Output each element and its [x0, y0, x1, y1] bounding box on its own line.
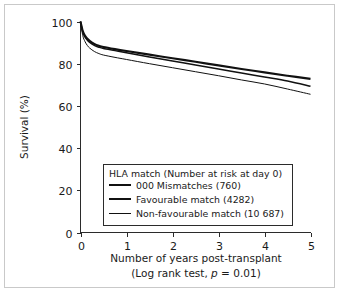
legend-header: HLA match (Number at risk at day 0)	[109, 168, 282, 179]
x-tick-group: 012345	[78, 233, 315, 253]
x-axis-subtitle-prefix: (Log rank test,	[131, 267, 211, 279]
legend-entry-label: Non-favourable match (10 687)	[136, 208, 284, 219]
x-axis-subtitle: (Log rank test, p = 0.01)	[131, 267, 260, 279]
x-axis-title: Number of years post-transplant	[110, 252, 281, 264]
y-tick-label: 40	[59, 143, 73, 156]
y-axis: 020406080100	[52, 17, 81, 241]
legend: HLA match (Number at risk at day 0) 000 …	[104, 165, 293, 226]
survival-chart-figure: 020406080100 012345 Survival (%) Number …	[0, 0, 339, 292]
x-tick-label: 4	[262, 240, 269, 253]
x-tick-label: 5	[308, 240, 315, 253]
y-tick-label: 0	[66, 228, 73, 241]
x-tick-label: 0	[78, 240, 85, 253]
x-tick-label: 1	[124, 240, 131, 253]
y-tick-label: 80	[59, 59, 73, 72]
x-tick-label: 2	[170, 240, 177, 253]
legend-entry-label: Favourable match (4282)	[136, 194, 254, 205]
y-tick-group: 020406080100	[52, 17, 81, 241]
y-tick-label: 100	[52, 17, 73, 30]
survival-chart-svg: 020406080100 012345 Survival (%) Number …	[0, 0, 339, 292]
y-axis-title: Survival (%)	[18, 95, 30, 159]
survival-curve	[81, 22, 311, 87]
x-axis: 012345	[78, 233, 315, 253]
x-tick-label: 3	[216, 240, 223, 253]
survival-curve	[81, 22, 311, 95]
legend-entry-label: 000 Mismatches (760)	[136, 180, 241, 191]
y-tick-label: 60	[59, 101, 73, 114]
x-axis-subtitle-suffix: = 0.01)	[218, 267, 261, 279]
survival-curves	[81, 22, 311, 95]
y-tick-label: 20	[59, 185, 73, 198]
